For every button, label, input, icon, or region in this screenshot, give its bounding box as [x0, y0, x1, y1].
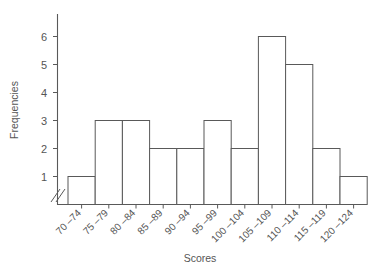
histogram-bar — [286, 65, 313, 205]
histogram-bar — [258, 37, 285, 205]
histogram-bar — [122, 121, 149, 205]
chart-canvas: 123456 70 –7475 –7980 –8485 –8990 –9495 … — [0, 0, 373, 271]
y-tick-label: 1 — [41, 171, 47, 183]
histogram-bar — [177, 149, 204, 205]
histogram-bar — [204, 121, 231, 205]
x-axis-title: Scores — [184, 252, 217, 264]
histogram-bar — [231, 149, 258, 205]
y-axis-title: Frequencies — [8, 81, 20, 139]
y-tick-label: 3 — [41, 115, 47, 127]
y-tick-label: 4 — [41, 87, 47, 99]
histogram-chart: 123456 70 –7475 –7980 –8485 –8990 –9495 … — [0, 0, 373, 271]
histogram-bar — [150, 149, 177, 205]
histogram-bar — [340, 177, 367, 205]
y-tick-label: 5 — [41, 59, 47, 71]
histogram-bar — [95, 121, 122, 205]
y-tick-label: 2 — [41, 143, 47, 155]
histogram-bar — [313, 149, 340, 205]
histogram-bar — [68, 177, 95, 205]
y-tick-label: 6 — [41, 31, 47, 43]
